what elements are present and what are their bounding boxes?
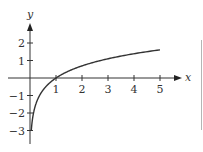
ln-graph: 12345 21−1−2−3 x y — [0, 0, 203, 152]
x-tick-label: 2 — [79, 83, 86, 96]
x-tick-label: 4 — [131, 83, 138, 96]
y-axis-arrow-icon — [27, 23, 33, 31]
y-tick-label: −2 — [9, 107, 25, 120]
x-tick-label: 1 — [53, 83, 60, 96]
x-axis-label: x — [185, 71, 192, 84]
y-tick-label: 1 — [18, 55, 25, 68]
y-ticks: 21−1−2−3 — [9, 37, 33, 138]
y-tick-label: −1 — [9, 90, 25, 103]
x-tick-label: 3 — [105, 83, 112, 96]
divider-rule — [201, 40, 202, 130]
y-tick-label: 2 — [18, 37, 25, 50]
y-tick-label: −3 — [9, 125, 25, 138]
x-tick-label: 5 — [157, 83, 164, 96]
x-axis-arrow-icon — [174, 75, 182, 81]
y-axis-label: y — [26, 8, 34, 21]
ln-curve — [31, 50, 160, 131]
